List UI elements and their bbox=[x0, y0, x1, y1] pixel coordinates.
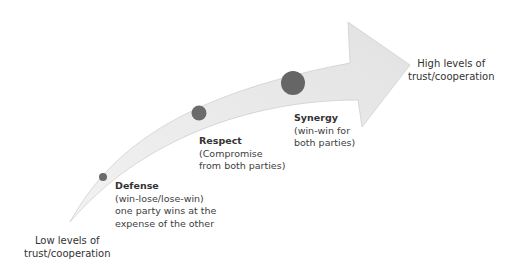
defense-dot bbox=[99, 173, 107, 181]
respect-dot bbox=[192, 106, 207, 121]
stage-desc: both parties) bbox=[294, 137, 355, 150]
synergy-dot bbox=[281, 71, 305, 95]
stage-desc: expense of the other bbox=[115, 218, 216, 231]
stage-title: Synergy bbox=[294, 112, 355, 125]
high-trust-label: High levels of trust/cooperation bbox=[408, 57, 495, 83]
stage-desc: from both parties) bbox=[199, 160, 285, 173]
high-trust-line2: trust/cooperation bbox=[408, 70, 495, 83]
stage-title: Defense bbox=[115, 180, 216, 193]
low-trust-line1: Low levels of bbox=[24, 234, 111, 247]
stage-desc: (win-lose/lose-win) bbox=[115, 193, 216, 206]
low-trust-line2: trust/cooperation bbox=[24, 247, 111, 260]
stage-desc: one party wins at the bbox=[115, 205, 216, 218]
stage-desc: (Compromise bbox=[199, 148, 285, 161]
stage-title: Respect bbox=[199, 135, 285, 148]
stage-synergy: Synergy (win-win for both parties) bbox=[294, 112, 355, 150]
stage-desc: (win-win for bbox=[294, 125, 355, 138]
low-trust-label: Low levels of trust/cooperation bbox=[24, 234, 111, 260]
high-trust-line1: High levels of bbox=[408, 57, 495, 70]
stage-defense: Defense (win-lose/lose-win) one party wi… bbox=[115, 180, 216, 230]
stage-respect: Respect (Compromise from both parties) bbox=[199, 135, 285, 173]
